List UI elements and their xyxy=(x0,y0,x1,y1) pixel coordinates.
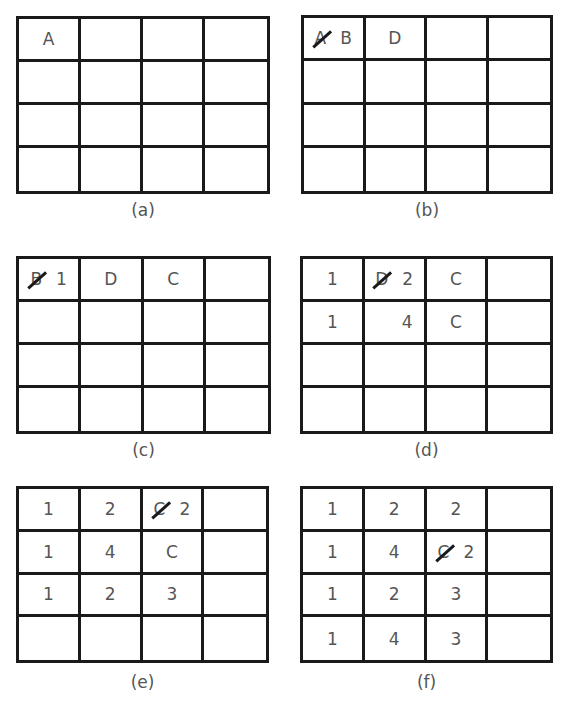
grid-cell xyxy=(81,105,143,148)
cell-value: 1 xyxy=(327,542,338,562)
cell-value: 1 xyxy=(327,269,338,289)
grid-cell: C xyxy=(144,259,206,302)
grid-cell xyxy=(81,19,143,62)
grid-cell xyxy=(488,259,550,302)
struck-value: D xyxy=(375,269,388,289)
grid-cell: 2 xyxy=(365,575,427,618)
panel-caption: (a) xyxy=(113,200,173,220)
grid-c: B1DC xyxy=(16,256,271,434)
grid-cell xyxy=(489,18,551,61)
cell-value: C xyxy=(450,269,462,289)
grid-cell xyxy=(206,345,268,388)
cell-value: 1 xyxy=(327,499,338,519)
grid-cell xyxy=(488,575,550,618)
grid-cell xyxy=(489,148,551,191)
grid-cell: 3 xyxy=(427,575,489,618)
grid-cell xyxy=(19,62,81,105)
grid-cell xyxy=(143,19,205,62)
cell-value: 1 xyxy=(56,269,67,289)
grid-cell: B1 xyxy=(19,259,81,302)
grid-cell xyxy=(488,302,550,345)
grid-cell xyxy=(81,345,143,388)
grid-cell: 3 xyxy=(427,617,489,660)
cell-value: 2 xyxy=(389,584,400,604)
cell-value: 1 xyxy=(43,542,54,562)
grid-cell xyxy=(204,617,266,660)
panel-caption: (c) xyxy=(114,440,174,460)
grid-cell xyxy=(19,302,81,345)
grid-cell xyxy=(488,489,550,532)
cell-value: D xyxy=(388,28,401,48)
grid-e: 12C214C123 xyxy=(16,486,269,663)
grid-cell: 1 xyxy=(303,532,365,575)
grid-cell xyxy=(19,105,81,148)
grid-cell xyxy=(366,61,428,104)
grid-cell xyxy=(488,532,550,575)
grid-cell xyxy=(304,61,366,104)
grid-cell: 1 xyxy=(19,575,81,618)
cell-value: 4 xyxy=(105,542,116,562)
grid-cell xyxy=(427,18,489,61)
grid-cell xyxy=(19,388,81,431)
grid-cell xyxy=(488,617,550,660)
cell-value: 2 xyxy=(463,542,474,562)
grid-cell xyxy=(81,302,143,345)
cell-value: 2 xyxy=(402,269,413,289)
grid-cell xyxy=(144,345,206,388)
cell-value: 2 xyxy=(179,499,190,519)
grid-cell xyxy=(205,105,267,148)
grid-cell: 2 xyxy=(365,489,427,532)
struck-value: C xyxy=(438,542,450,562)
cell-value: 4 xyxy=(389,542,400,562)
grid-cell: 4 xyxy=(81,532,143,575)
grid-cell xyxy=(427,388,489,431)
cell-value: B xyxy=(340,28,352,48)
grid-b: ABD xyxy=(301,15,553,194)
grid-cell xyxy=(489,61,551,104)
grid-cell xyxy=(205,19,267,62)
grid-cell xyxy=(206,259,268,302)
cell-value: 3 xyxy=(450,629,461,649)
cell-value: C xyxy=(450,312,462,332)
grid-cell: 4 xyxy=(365,302,427,345)
grid-cell: C2 xyxy=(427,532,489,575)
grid-a: A xyxy=(16,16,270,194)
grid-cell xyxy=(206,388,268,431)
grid-cell: 1 xyxy=(303,617,365,660)
cell-value: 1 xyxy=(327,629,338,649)
grid-cell xyxy=(304,148,366,191)
grid-cell xyxy=(304,105,366,148)
grid-cell xyxy=(143,148,205,191)
grid-cell: C xyxy=(427,302,489,345)
grid-cell xyxy=(143,62,205,105)
cell-value: C xyxy=(167,269,179,289)
cell-value: 4 xyxy=(389,629,400,649)
grid-cell: 1 xyxy=(303,302,365,345)
grid-cell: 4 xyxy=(365,617,427,660)
grid-cell: 4 xyxy=(365,532,427,575)
grid-cell xyxy=(81,617,143,660)
grid-cell xyxy=(143,105,205,148)
grid-cell xyxy=(143,617,205,660)
panel-caption: (b) xyxy=(397,200,457,220)
panel-caption: (d) xyxy=(397,440,457,460)
grid-cell: 1 xyxy=(303,489,365,532)
grid-d: 1D2C14C xyxy=(300,256,553,434)
grid-cell xyxy=(204,489,266,532)
grid-f: 12214C2123143 xyxy=(300,486,553,663)
grid-cell xyxy=(489,105,551,148)
grid-cell xyxy=(144,388,206,431)
grid-cell: 1 xyxy=(303,575,365,618)
cell-value: 2 xyxy=(105,584,116,604)
cell-value: 4 xyxy=(402,312,413,332)
grid-cell: 1 xyxy=(303,259,365,302)
cell-value: 3 xyxy=(450,584,461,604)
grid-cell xyxy=(206,302,268,345)
cell-value: 1 xyxy=(327,312,338,332)
grid-cell: C2 xyxy=(143,489,205,532)
struck-value: B xyxy=(30,269,42,289)
cell-value: 2 xyxy=(105,499,116,519)
grid-cell xyxy=(427,105,489,148)
grid-cell: D xyxy=(366,18,428,61)
grid-cell xyxy=(204,575,266,618)
